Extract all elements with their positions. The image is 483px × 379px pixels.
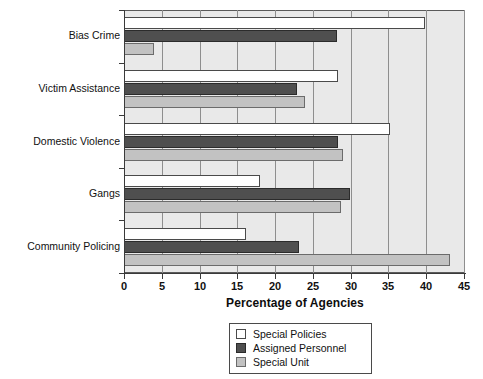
category-label: Victim Assistance <box>2 83 120 94</box>
x-axis-tick <box>313 274 314 279</box>
bar <box>124 201 341 213</box>
gridline-45 <box>464 10 465 273</box>
x-axis-tick-label: 35 <box>373 280 403 292</box>
category-label: Community Policing <box>2 241 120 252</box>
x-axis-tick-label: 30 <box>336 280 366 292</box>
y-axis-line <box>124 10 125 274</box>
x-axis-tick <box>237 274 238 279</box>
bar-chart-figure: Bias CrimeVictim AssistanceDomestic Viol… <box>0 0 483 379</box>
category-label: Bias Crime <box>2 30 120 41</box>
x-axis-tick <box>351 274 352 279</box>
gridline-35 <box>388 10 389 273</box>
plot-area <box>124 10 465 273</box>
legend-item: Special Policies <box>236 327 366 341</box>
gridline-30 <box>351 10 352 273</box>
bar <box>124 123 390 135</box>
bar <box>124 175 260 187</box>
x-axis-tick <box>426 274 427 279</box>
gridline-40 <box>426 10 427 273</box>
x-axis-tick-label: 25 <box>298 280 328 292</box>
bar <box>124 188 350 200</box>
bar <box>124 30 337 42</box>
bar <box>124 96 305 108</box>
x-axis-tick-label: 40 <box>411 280 441 292</box>
x-axis-tick <box>162 274 163 279</box>
legend-item: Special Unit <box>236 355 366 369</box>
legend-swatch-icon <box>236 357 246 367</box>
category-label: Gangs <box>2 188 120 199</box>
bar <box>124 70 338 82</box>
x-axis-tick-label: 15 <box>222 280 252 292</box>
bar <box>124 228 246 240</box>
x-axis-tick <box>388 274 389 279</box>
chart-legend: Special PoliciesAssigned PersonnelSpecia… <box>229 323 372 374</box>
x-axis-tick <box>124 274 125 279</box>
x-axis-tick-label: 5 <box>147 280 177 292</box>
bar <box>124 43 154 55</box>
legend-label: Special Unit <box>253 356 309 368</box>
x-axis-line <box>124 273 466 274</box>
bar <box>124 149 343 161</box>
legend-item: Assigned Personnel <box>236 341 366 355</box>
legend-swatch-icon <box>236 329 246 339</box>
y-axis-category-labels: Bias CrimeVictim AssistanceDomestic Viol… <box>0 0 120 379</box>
legend-label: Assigned Personnel <box>253 342 346 354</box>
legend-swatch-icon <box>236 343 246 353</box>
x-axis-tick <box>275 274 276 279</box>
bar <box>124 136 338 148</box>
bar <box>124 254 450 266</box>
bar <box>124 83 297 95</box>
x-axis-tick-label: 10 <box>185 280 215 292</box>
bar <box>124 17 425 29</box>
x-axis-tick <box>200 274 201 279</box>
legend-label: Special Policies <box>253 328 327 340</box>
x-axis-title: Percentage of Agencies <box>124 296 466 310</box>
x-axis-tick-label: 45 <box>449 280 479 292</box>
category-label: Domestic Violence <box>2 136 120 147</box>
x-axis-tick-label: 0 <box>109 280 139 292</box>
bar <box>124 241 299 253</box>
x-axis-tick-label: 20 <box>260 280 290 292</box>
x-axis-tick <box>464 274 465 279</box>
